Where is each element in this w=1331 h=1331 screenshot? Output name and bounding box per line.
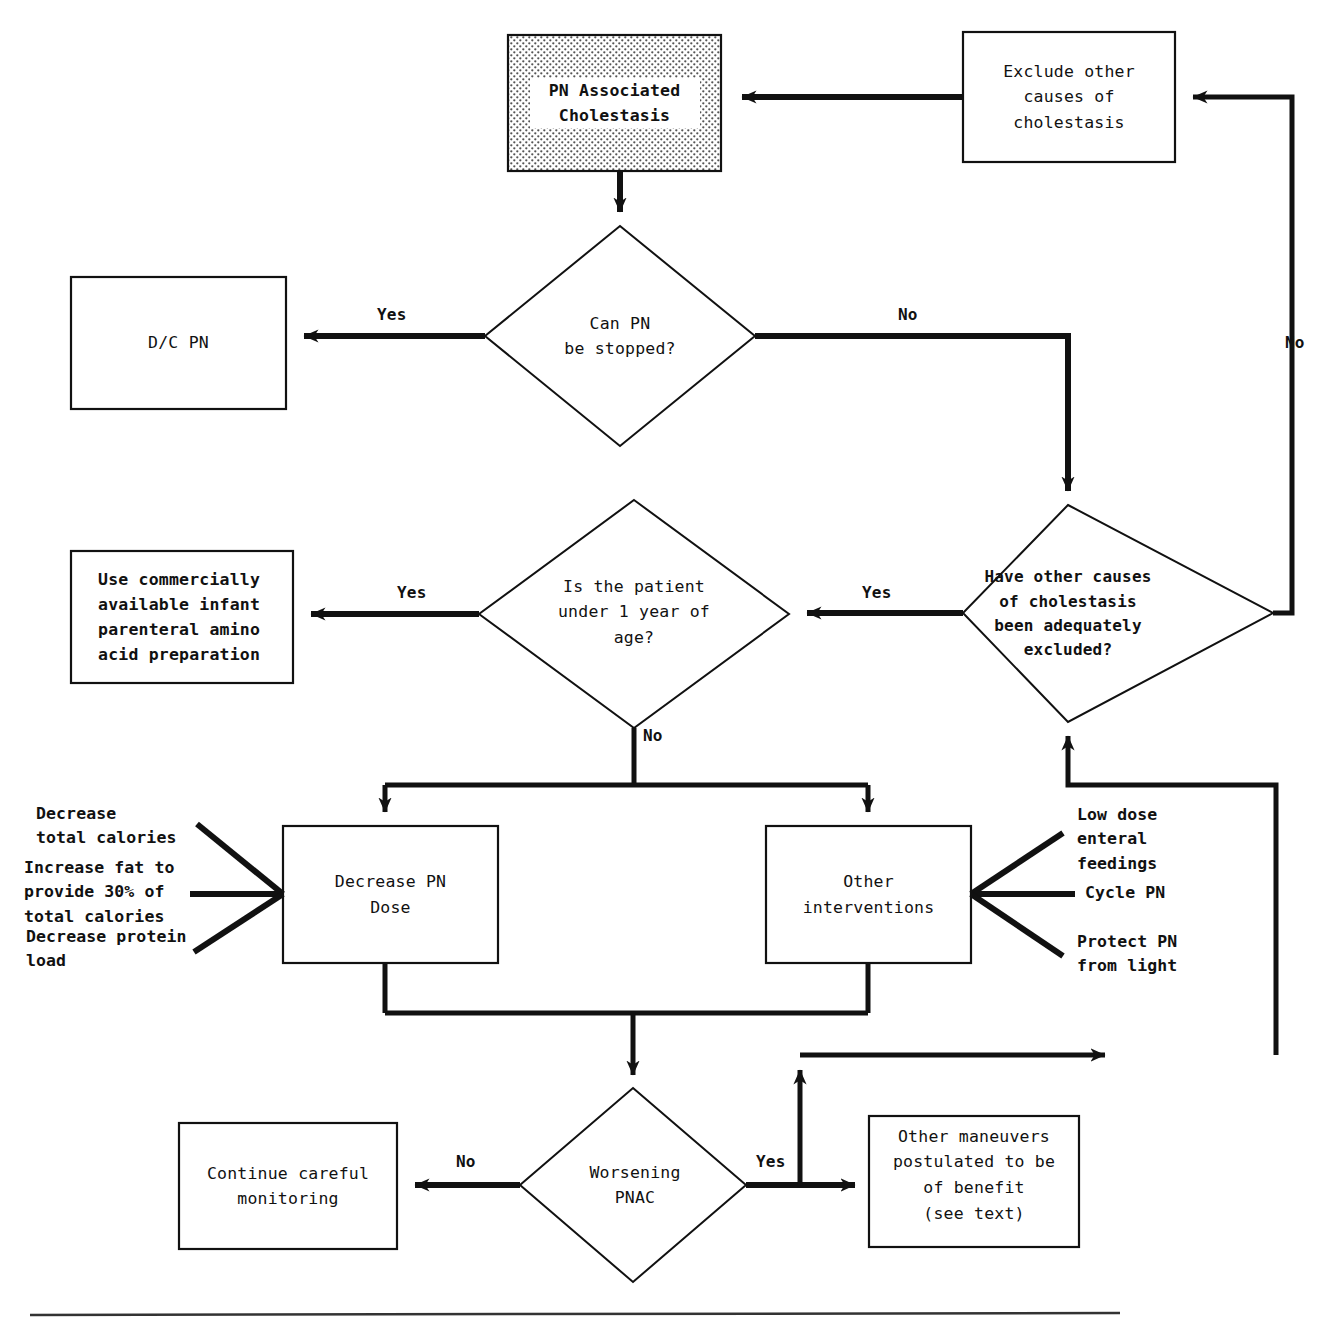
edge-label-worsening-pnac-no: No [456,1152,476,1171]
node-use-infant-amino-acid-preparation [71,551,293,683]
annotation-low-dose-enteral-feedings: Low dose enteral feedings [1077,803,1247,876]
node-continue-careful-monitoring [179,1123,397,1249]
edge-label-have-other-causes-no: No [1285,333,1305,352]
node-worsening-pnac [520,1088,746,1282]
node-pn-associated-cholestasis [508,35,721,171]
leader-protect-pn-from-light [971,894,1063,956]
leader-decrease-protein [194,894,283,952]
flowchart-page: D/C PN --> Have other causes (down-right… [0,0,1331,1331]
annotation-protect-pn-from-light: Protect PN from light [1077,930,1247,979]
edge-label-have-other-causes-yes: Yes [862,583,892,602]
node-dc-pn [71,277,286,409]
annotation-decrease-protein-load: Decrease protein load [26,925,206,974]
edge-label-worsening-pnac-yes: Yes [756,1152,786,1171]
annotation-cycle-pn: Cycle PN [1085,881,1255,905]
node-other-interventions [766,826,971,963]
edge-have-other-causes-no [1193,97,1292,613]
node-have-other-causes-excluded [963,505,1273,722]
edge-label-under-1-year-no: No [643,726,663,745]
bottom-rule [30,1313,1120,1315]
node-other-maneuvers [869,1116,1079,1247]
leader-decrease-total-calories [197,824,283,894]
edge-label-under-1-year-yes: Yes [397,583,427,602]
flowchart-canvas: D/C PN --> Have other causes (down-right… [0,0,1331,1331]
edge-can-pn-stopped-no [755,336,1068,491]
annotation-increase-fat: Increase fat to provide 30% of total cal… [24,856,204,929]
node-decrease-pn-dose [283,826,498,963]
annotation-decrease-total-calories: Decrease total calories [36,802,206,851]
leader-low-dose-enteral [971,833,1063,894]
node-is-patient-under-1-year [479,500,789,728]
edge-label-can-pn-stopped-yes: Yes [377,305,407,324]
edge-label-can-pn-stopped-no: No [898,305,918,324]
node-can-pn-be-stopped [485,226,755,446]
node-exclude-other-causes [963,32,1175,162]
